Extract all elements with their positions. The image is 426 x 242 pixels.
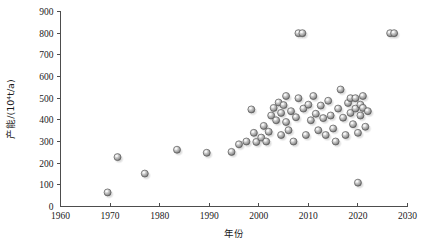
- y-tick-label: 800: [39, 29, 54, 39]
- data-point: [342, 132, 349, 139]
- data-point: [335, 105, 342, 112]
- data-point-highlight: [115, 155, 118, 157]
- data-point: [235, 141, 242, 148]
- data-point: [141, 170, 148, 177]
- data-point-highlight: [321, 116, 324, 118]
- y-tick-label: 300: [39, 137, 54, 147]
- data-point-highlight: [291, 139, 294, 141]
- data-point: [330, 125, 337, 132]
- plot-canvas: 0100200300400500600700800900 19601970198…: [0, 0, 426, 242]
- data-point-highlight: [392, 31, 395, 33]
- data-point-highlight: [205, 151, 208, 153]
- data-point: [325, 97, 332, 104]
- y-tick-label: 900: [39, 7, 54, 17]
- data-point-highlight: [356, 131, 359, 133]
- data-point: [203, 149, 210, 156]
- data-point-highlight: [244, 139, 247, 141]
- data-point-highlight: [279, 111, 282, 113]
- data-point-highlight: [249, 107, 252, 109]
- data-point: [332, 138, 339, 145]
- data-point: [278, 109, 285, 116]
- data-point: [310, 93, 317, 100]
- data-point: [250, 129, 257, 136]
- data-point-highlight: [316, 128, 319, 130]
- x-tick-label: 2010: [299, 211, 318, 221]
- data-point-highlight: [388, 31, 391, 33]
- data-point-highlight: [356, 181, 359, 183]
- data-point-highlight: [361, 106, 364, 108]
- data-point-highlight: [328, 113, 331, 115]
- data-point-highlight: [300, 31, 303, 33]
- data-point-highlight: [274, 118, 277, 120]
- data-point-highlight: [289, 109, 292, 111]
- data-point-highlight: [323, 133, 326, 135]
- data-point-highlight: [143, 171, 146, 173]
- data-point-highlight: [343, 133, 346, 135]
- data-point: [280, 102, 287, 109]
- data-point: [290, 138, 297, 145]
- data-point: [114, 154, 121, 161]
- data-point-highlight: [358, 113, 361, 115]
- data-point-highlight: [279, 133, 282, 135]
- data-point-highlight: [311, 94, 314, 96]
- data-point: [307, 117, 314, 124]
- data-point: [292, 114, 299, 121]
- scatter-chart-figure: 0100200300400500600700800900 19601970198…: [0, 0, 426, 242]
- x-tick-label: 2020: [348, 211, 367, 221]
- x-tick-label: 2030: [398, 211, 417, 221]
- y-tick-label: 600: [39, 72, 54, 82]
- data-point-highlight: [351, 122, 354, 124]
- data-point: [357, 112, 364, 119]
- data-point-highlight: [341, 116, 344, 118]
- data-point-highlight: [309, 118, 312, 120]
- data-point: [302, 132, 309, 139]
- data-point: [340, 114, 347, 121]
- y-tick-label: 500: [39, 94, 54, 104]
- data-point-highlight: [254, 140, 257, 142]
- data-point: [243, 138, 250, 145]
- data-point-highlight: [338, 87, 341, 89]
- x-tick-label: 1960: [51, 211, 70, 221]
- data-point: [285, 127, 292, 134]
- data-point-highlight: [319, 103, 322, 105]
- data-point-highlight: [252, 131, 255, 133]
- data-point: [354, 179, 361, 186]
- data-point: [349, 121, 356, 128]
- data-point-highlight: [259, 135, 262, 137]
- y-tick-label: 200: [39, 159, 54, 169]
- data-point-highlight: [304, 133, 307, 135]
- data-point-highlight: [269, 113, 272, 115]
- data-point: [295, 95, 302, 102]
- data-point: [305, 101, 312, 108]
- data-point: [354, 129, 361, 136]
- data-point-highlight: [314, 112, 317, 114]
- data-point: [362, 123, 369, 130]
- data-point-highlight: [358, 103, 361, 105]
- data-point: [228, 148, 235, 155]
- y-tick-label: 700: [39, 50, 54, 60]
- data-points-layer: [104, 30, 398, 196]
- data-point: [352, 95, 359, 102]
- data-point: [337, 86, 344, 93]
- data-point: [278, 132, 285, 139]
- data-point-highlight: [266, 130, 269, 132]
- y-axis-title: 产能/(10⁴t/a): [5, 79, 16, 138]
- data-point: [391, 30, 398, 37]
- data-point-highlight: [348, 96, 351, 98]
- data-point-highlight: [284, 94, 287, 96]
- x-axis-title: 年份: [224, 228, 244, 239]
- x-tick-label: 1980: [150, 211, 169, 221]
- data-point-highlight: [229, 150, 232, 152]
- data-point-highlight: [286, 128, 289, 130]
- data-point: [270, 104, 277, 111]
- data-point-highlight: [296, 31, 299, 33]
- data-point-highlight: [348, 111, 351, 113]
- x-tick-label: 1990: [200, 211, 219, 221]
- data-point: [322, 132, 329, 139]
- data-point-highlight: [105, 190, 108, 192]
- data-point: [273, 117, 280, 124]
- data-point-highlight: [276, 100, 279, 102]
- data-point-highlight: [294, 115, 297, 117]
- data-point: [283, 119, 290, 126]
- data-point: [104, 189, 111, 196]
